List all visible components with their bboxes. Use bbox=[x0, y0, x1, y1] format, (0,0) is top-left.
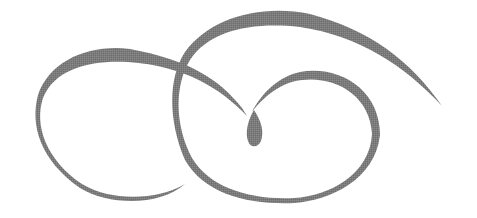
teardrop-knot bbox=[247, 110, 263, 146]
swirl-ornament-icon bbox=[0, 0, 477, 218]
flourish-graphic bbox=[0, 0, 477, 218]
right-sweep-stroke bbox=[172, 11, 442, 203]
left-loop-stroke bbox=[35, 48, 247, 201]
